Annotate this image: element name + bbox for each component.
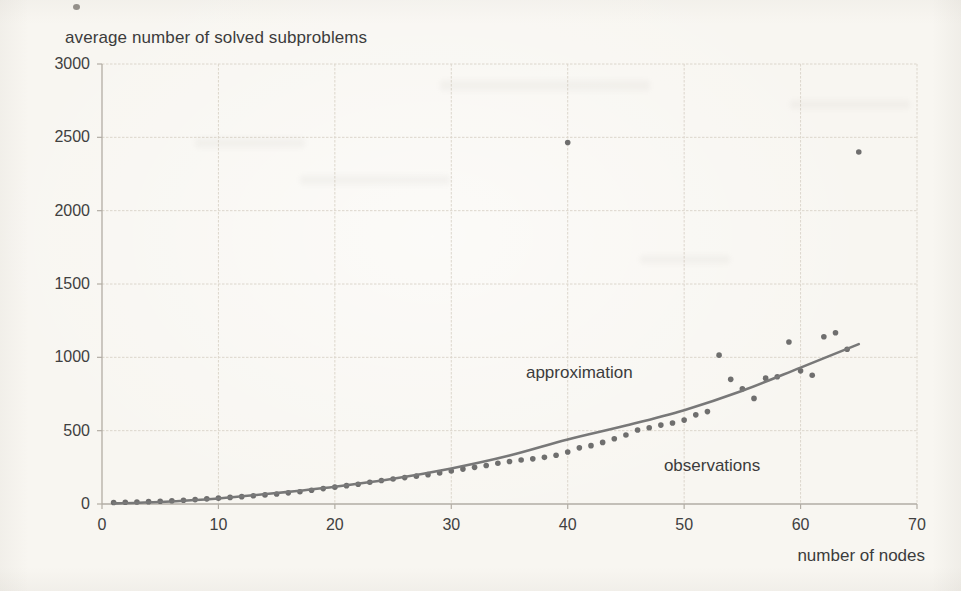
- x-tick-label: 60: [779, 516, 823, 534]
- y-tick-label: 500: [30, 422, 90, 440]
- annotation-approximation: approximation: [526, 363, 633, 383]
- x-tick-label: 0: [80, 516, 124, 534]
- observation-point: [600, 440, 606, 446]
- annotation-observations: observations: [664, 456, 760, 476]
- y-tick-label: 2000: [30, 202, 90, 220]
- scanned-chart-page: average number of solved subproblems 050…: [0, 0, 961, 591]
- approximation-curve: [114, 344, 859, 503]
- observation-point: [518, 457, 524, 463]
- x-tick-label: 70: [895, 516, 939, 534]
- x-tick-label: 30: [429, 516, 473, 534]
- observation-point: [728, 377, 734, 383]
- y-tick-label: 2500: [30, 128, 90, 146]
- observation-point: [658, 422, 664, 428]
- observation-point: [483, 463, 489, 469]
- observation-point: [577, 445, 583, 451]
- observation-point: [588, 443, 594, 449]
- scatter-plot-canvas: [0, 0, 961, 591]
- observation-point: [856, 149, 862, 155]
- x-tick-label: 10: [196, 516, 240, 534]
- observation-point: [751, 396, 757, 402]
- x-tick-label: 20: [313, 516, 357, 534]
- observation-point: [507, 459, 513, 465]
- observation-point: [635, 427, 641, 433]
- observation-point: [611, 436, 617, 442]
- observation-point: [565, 140, 571, 146]
- observation-point: [495, 460, 501, 466]
- observation-point: [786, 339, 792, 345]
- observation-point: [542, 455, 548, 461]
- observation-point: [646, 425, 652, 431]
- x-axis-title: number of nodes: [797, 546, 925, 566]
- observation-point: [681, 417, 687, 423]
- observation-point: [809, 372, 815, 378]
- observation-point: [530, 456, 536, 462]
- observation-point: [705, 409, 711, 415]
- observation-point: [833, 330, 839, 336]
- x-tick-label: 40: [546, 516, 590, 534]
- observation-point: [821, 334, 827, 340]
- observation-point: [716, 352, 722, 358]
- y-tick-label: 3000: [30, 55, 90, 73]
- observation-point: [693, 412, 699, 418]
- observation-point: [553, 453, 559, 459]
- x-tick-label: 50: [662, 516, 706, 534]
- y-tick-label: 0: [30, 495, 90, 513]
- observation-point: [670, 420, 676, 426]
- y-tick-label: 1000: [30, 348, 90, 366]
- observation-point: [565, 449, 571, 455]
- observation-point: [623, 432, 629, 438]
- scan-speck: [73, 4, 80, 10]
- y-tick-label: 1500: [30, 275, 90, 293]
